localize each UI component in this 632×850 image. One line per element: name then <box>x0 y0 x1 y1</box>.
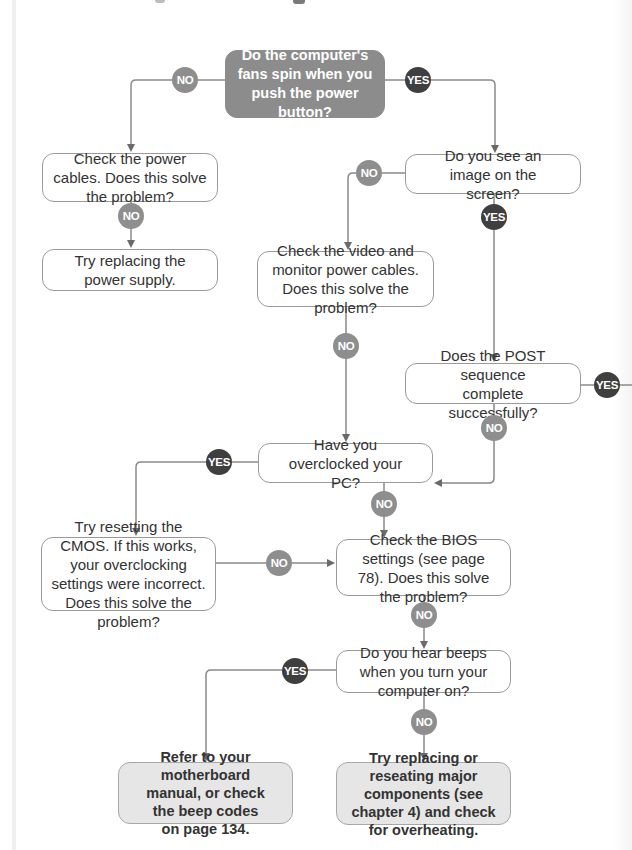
overclocked-text: Have you overclocked your PC? <box>281 435 410 492</box>
image-on-screen-text: Do you see an image on the screen? <box>434 146 552 203</box>
reset-cmos-box: Try resetting the CMOS. If this works, y… <box>41 537 216 611</box>
start-question-box: Do the computer's fans spin when you pus… <box>225 50 385 118</box>
yes-badge: YES <box>206 449 232 475</box>
overclocked-box: Have you overclocked your PC? <box>258 443 433 483</box>
no-badge: NO <box>481 415 507 441</box>
bios-settings-text: Check the BIOS settings (see page 78). D… <box>357 530 490 606</box>
no-badge: NO <box>371 491 397 517</box>
power-cables-text: Check the power cables. Does this solve … <box>49 149 211 206</box>
reset-cmos-text: Try resetting the CMOS. If this works, y… <box>48 517 209 631</box>
power-supply-box: Try replacing the power supply. <box>42 249 218 291</box>
motherboard-manual-text: Refer to your motherboard manual, or che… <box>145 748 266 838</box>
no-badge: NO <box>411 709 437 735</box>
no-badge: NO <box>356 160 382 186</box>
image-on-screen-box: Do you see an image on the screen? <box>405 154 581 194</box>
hear-beeps-box: Do you hear beeps when you turn your com… <box>336 650 511 693</box>
video-cables-box: Check the video and monitor power cables… <box>257 251 434 307</box>
no-badge: NO <box>118 203 144 229</box>
post-sequence-text: Does the POST sequence complete successf… <box>428 346 558 422</box>
post-sequence-box: Does the POST sequence complete successf… <box>405 363 581 404</box>
yes-badge: YES <box>282 658 308 684</box>
no-badge: NO <box>266 550 292 576</box>
connector-lines <box>0 0 632 850</box>
replace-components-text: Try replacing or reseating major compone… <box>347 749 500 839</box>
yes-badge: YES <box>481 204 507 230</box>
start-question-text: Do the computer's fans spin when you pus… <box>232 46 378 122</box>
yes-badge: YES <box>405 67 431 93</box>
replace-components-box: Try replacing or reseating major compone… <box>336 762 511 825</box>
hear-beeps-text: Do you hear beeps when you turn your com… <box>345 643 502 700</box>
video-cables-text: Check the video and monitor power cables… <box>264 241 427 317</box>
yes-badge: YES <box>594 372 620 398</box>
no-badge: NO <box>333 333 359 359</box>
power-cables-box: Check the power cables. Does this solve … <box>42 153 218 202</box>
motherboard-manual-box: Refer to your motherboard manual, or che… <box>118 762 293 824</box>
no-badge: NO <box>172 67 198 93</box>
power-supply-text: Try replacing the power supply. <box>73 251 187 289</box>
no-badge: NO <box>411 602 437 628</box>
bios-settings-box: Check the BIOS settings (see page 78). D… <box>336 539 511 596</box>
